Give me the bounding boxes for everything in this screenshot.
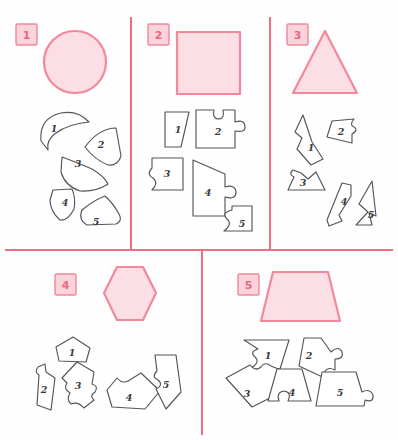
puzzle-piece-1-5[interactable] xyxy=(81,196,121,225)
puzzle-piece-label-5-2: 2 xyxy=(305,350,313,361)
panel-label-3: 3 xyxy=(294,29,302,42)
panel-label-2: 2 xyxy=(155,29,163,42)
target-shape-hexagon xyxy=(104,267,156,320)
puzzle-piece-label-3-5: 5 xyxy=(368,209,375,220)
puzzle-piece-label-2-5: 5 xyxy=(239,218,246,229)
puzzle-piece-2-4[interactable] xyxy=(193,160,236,216)
puzzle-piece-label-2-4: 4 xyxy=(205,187,212,198)
puzzle-piece-label-3-2: 2 xyxy=(337,126,345,137)
puzzle-piece-label-4-3: 3 xyxy=(75,380,82,391)
puzzle-svg: 112345212345312345412345512345 xyxy=(0,0,398,440)
panel-label-5: 5 xyxy=(245,279,253,292)
puzzle-piece-label-4-5: 5 xyxy=(163,379,170,390)
puzzle-piece-label-3-3: 3 xyxy=(300,177,307,188)
puzzle-piece-label-5-5: 5 xyxy=(337,387,344,398)
puzzle-piece-3-3[interactable] xyxy=(288,170,325,190)
puzzle-piece-label-1-4: 4 xyxy=(62,197,69,208)
puzzle-piece-label-1-5: 5 xyxy=(93,216,100,227)
puzzle-piece-label-3-1: 1 xyxy=(308,142,315,153)
puzzle-piece-label-1-3: 3 xyxy=(75,158,82,169)
puzzle-piece-label-1-2: 2 xyxy=(97,139,105,150)
puzzle-piece-label-4-1: 1 xyxy=(69,347,76,358)
puzzle-piece-label-5-3: 3 xyxy=(244,388,251,399)
puzzle-piece-label-2-3: 3 xyxy=(164,168,171,179)
puzzle-piece-label-5-4: 4 xyxy=(289,387,296,398)
puzzle-piece-label-4-4: 4 xyxy=(126,392,133,403)
puzzle-piece-label-2-2: 2 xyxy=(214,126,222,137)
target-shape-circle xyxy=(44,31,106,93)
puzzle-piece-4-4[interactable] xyxy=(107,373,160,409)
puzzle-piece-3-4[interactable] xyxy=(327,183,351,226)
puzzle-piece-3-1[interactable] xyxy=(295,115,323,165)
target-shape-trapezoid xyxy=(261,272,340,321)
panel-label-4: 4 xyxy=(62,279,70,292)
panel-label-1: 1 xyxy=(23,29,31,42)
target-shape-square xyxy=(177,32,240,94)
puzzle-piece-label-5-1: 1 xyxy=(265,350,272,361)
worksheet-canvas: 112345212345312345412345512345 xyxy=(0,0,398,440)
puzzle-piece-1-1[interactable] xyxy=(41,112,89,150)
puzzle-piece-label-1-1: 1 xyxy=(51,123,58,134)
puzzle-piece-label-2-1: 1 xyxy=(175,124,182,135)
puzzle-piece-5-5[interactable] xyxy=(316,372,373,406)
puzzle-piece-label-4-2: 2 xyxy=(40,384,48,395)
puzzle-piece-label-3-4: 4 xyxy=(341,196,348,207)
